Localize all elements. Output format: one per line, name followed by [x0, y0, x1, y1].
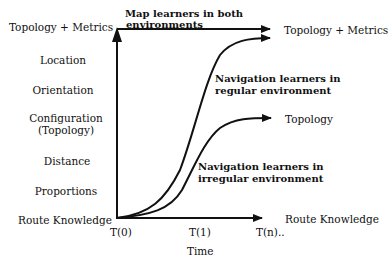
y-label-configuration-topology: (Topology) — [38, 124, 94, 136]
regular-environment-curve — [117, 38, 270, 218]
y-label-configuration: Configuration — [29, 112, 103, 124]
x-tick-t1: T(1) — [189, 226, 211, 238]
irregular-learners-label-1: Navigation learners in — [198, 161, 324, 172]
y-label-topology-metrics: Topology + Metrics — [9, 21, 113, 33]
y-label-orientation: Orientation — [32, 84, 93, 96]
x-tick-t0: T(0) — [110, 226, 132, 238]
regular-learners-label-1: Navigation learners in — [215, 73, 341, 84]
map-learners-label-2: environments — [126, 19, 203, 30]
right-label-topology-metrics: Topology + Metrics — [284, 24, 388, 36]
irregular-learners-label-2: irregular environment — [198, 173, 323, 184]
regular-learners-label-2: regular environment — [215, 85, 331, 96]
x-axis-label: Time — [187, 245, 214, 257]
right-label-topology: Topology — [285, 113, 333, 125]
y-label-proportions: Proportions — [35, 185, 98, 197]
y-label-location: Location — [40, 54, 86, 66]
y-label-distance: Distance — [44, 155, 91, 167]
map-learners-label-1: Map learners in both — [125, 8, 243, 19]
y-label-route-knowledge: Route Knowledge — [18, 214, 112, 226]
right-label-route-knowledge: Route Knowledge — [285, 213, 379, 225]
x-tick-tn: T(n).. — [256, 226, 285, 238]
